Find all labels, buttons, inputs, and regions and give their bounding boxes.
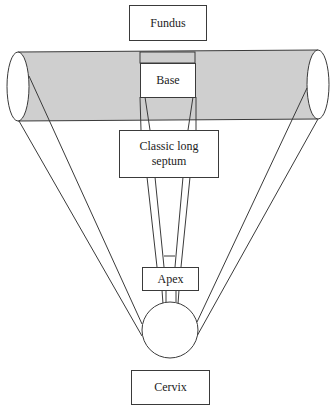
- septum-line-mid-r1: [175, 177, 183, 267]
- fundus-label-box: Fundus: [129, 5, 207, 41]
- left-cornu-ellipse: [7, 52, 29, 121]
- apex-label-box: Apex: [142, 267, 199, 291]
- septum-label-box: Classic long septum: [119, 130, 219, 178]
- base-label-box: Base: [140, 63, 196, 98]
- septum-line-mid-l1: [147, 177, 157, 267]
- diagram-shapes: [0, 0, 334, 409]
- base-label: Base: [156, 73, 179, 88]
- septum-line-low-l1: [162, 290, 163, 304]
- cervical-circle: [142, 302, 198, 358]
- right-outer-wall-line-2: [197, 88, 307, 322]
- septum-line-mid-l2: [155, 177, 164, 267]
- apex-label: Apex: [158, 272, 184, 287]
- diagram-canvas: Fundus Base Classic long septum Apex Cer…: [0, 0, 334, 409]
- septum-label-line1: Classic long: [140, 139, 199, 154]
- cervix-label: Cervix: [154, 380, 187, 395]
- right-cornu-ellipse: [307, 50, 329, 119]
- septum-line-low-r2: [178, 290, 179, 304]
- septum-label-line2: septum: [152, 154, 187, 169]
- cervix-label-box: Cervix: [131, 370, 210, 405]
- fundus-label: Fundus: [150, 16, 185, 31]
- base-region-top: [140, 52, 195, 63]
- septum-line-mid-r2: [181, 177, 190, 267]
